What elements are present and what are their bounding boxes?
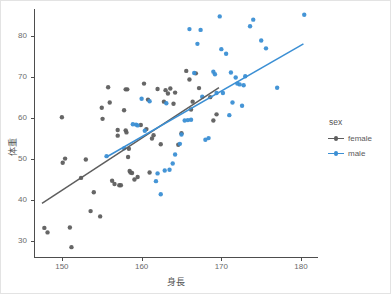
data-point bbox=[163, 168, 167, 172]
data-point bbox=[251, 17, 255, 21]
data-point bbox=[147, 99, 151, 103]
y-tick-label: 70 bbox=[1, 72, 27, 81]
data-point bbox=[159, 192, 163, 196]
y-tick-label: 50 bbox=[1, 154, 27, 163]
legend-label: male bbox=[348, 149, 365, 158]
data-point bbox=[100, 117, 104, 121]
legend-label: female bbox=[348, 134, 372, 143]
data-point bbox=[230, 100, 234, 104]
x-tick-label: 180 bbox=[294, 262, 307, 271]
x-tick-mark bbox=[221, 258, 222, 261]
data-point bbox=[178, 142, 182, 146]
data-point bbox=[108, 100, 112, 104]
data-point bbox=[192, 71, 196, 75]
data-point bbox=[135, 175, 139, 179]
data-point bbox=[130, 171, 134, 175]
data-point bbox=[168, 86, 172, 90]
x-axis-line bbox=[34, 257, 318, 258]
data-point bbox=[233, 75, 237, 79]
chart-figure: 体重 304050607080 150160170180 身長 sex fema… bbox=[0, 0, 391, 294]
data-point bbox=[171, 161, 175, 165]
data-point bbox=[213, 72, 217, 76]
data-point bbox=[143, 129, 147, 133]
data-point bbox=[227, 113, 231, 117]
data-point bbox=[187, 27, 191, 31]
x-tick-label: 150 bbox=[55, 262, 68, 271]
data-point bbox=[155, 171, 159, 175]
x-tick-mark bbox=[142, 258, 143, 261]
data-point bbox=[116, 133, 120, 137]
data-point bbox=[159, 142, 163, 146]
data-point bbox=[112, 182, 116, 186]
y-tick-label: 80 bbox=[1, 31, 27, 40]
legend-entries: femalemale bbox=[328, 134, 388, 158]
y-tick-label: 40 bbox=[1, 195, 27, 204]
y-tick-label: 60 bbox=[1, 113, 27, 122]
x-axis-title: 身長 bbox=[34, 275, 318, 288]
legend: sex femalemale bbox=[328, 117, 388, 164]
data-point bbox=[131, 122, 135, 126]
y-axis-tick-labels: 304050607080 bbox=[1, 1, 29, 294]
fit-line-female bbox=[42, 88, 219, 204]
data-point bbox=[164, 101, 168, 105]
data-point bbox=[122, 108, 126, 112]
data-point bbox=[179, 132, 183, 136]
data-point bbox=[241, 83, 245, 87]
data-point bbox=[61, 161, 65, 165]
data-point bbox=[142, 81, 146, 85]
data-point bbox=[275, 86, 279, 90]
data-point bbox=[214, 112, 218, 116]
plot-area bbox=[34, 9, 317, 257]
data-point bbox=[198, 28, 202, 32]
data-point bbox=[69, 245, 73, 249]
data-point bbox=[125, 87, 129, 91]
data-point bbox=[68, 225, 72, 229]
series-male bbox=[104, 13, 306, 197]
data-point bbox=[139, 97, 143, 101]
x-tick-label: 170 bbox=[215, 262, 228, 271]
data-point bbox=[45, 230, 49, 234]
data-point bbox=[264, 46, 268, 50]
data-point bbox=[211, 118, 215, 122]
data-point bbox=[100, 106, 104, 110]
data-point bbox=[219, 47, 223, 51]
data-point bbox=[302, 13, 306, 17]
legend-key-icon bbox=[328, 134, 344, 143]
data-point bbox=[167, 167, 171, 171]
legend-key-icon bbox=[328, 149, 344, 158]
data-point bbox=[88, 209, 92, 213]
data-point bbox=[155, 87, 159, 91]
data-point bbox=[248, 24, 252, 28]
data-point bbox=[135, 123, 139, 127]
data-point bbox=[126, 155, 130, 159]
data-point bbox=[259, 38, 263, 42]
data-point bbox=[106, 85, 110, 89]
data-point bbox=[151, 133, 155, 137]
data-point bbox=[206, 136, 210, 140]
data-point bbox=[92, 190, 96, 194]
data-point bbox=[173, 152, 177, 156]
data-point bbox=[229, 70, 233, 74]
x-tick-label: 160 bbox=[135, 262, 148, 271]
data-point bbox=[240, 104, 244, 108]
series-female bbox=[42, 69, 219, 250]
data-point bbox=[98, 214, 102, 218]
x-tick-mark bbox=[301, 258, 302, 261]
data-point bbox=[184, 69, 188, 73]
data-point bbox=[173, 90, 177, 94]
legend-item-male[interactable]: male bbox=[328, 149, 388, 158]
data-point bbox=[124, 130, 128, 134]
y-tick-label: 30 bbox=[1, 236, 27, 245]
x-tick-mark bbox=[62, 258, 63, 261]
data-point bbox=[42, 226, 46, 230]
data-point bbox=[84, 157, 88, 161]
data-point bbox=[166, 91, 170, 95]
data-point bbox=[147, 170, 151, 174]
data-point bbox=[116, 128, 120, 132]
scatter-plot-canvas bbox=[34, 9, 317, 257]
legend-item-female[interactable]: female bbox=[328, 134, 388, 143]
data-point bbox=[119, 183, 123, 187]
data-point bbox=[154, 179, 158, 183]
data-point bbox=[189, 117, 193, 121]
data-point bbox=[197, 86, 201, 90]
